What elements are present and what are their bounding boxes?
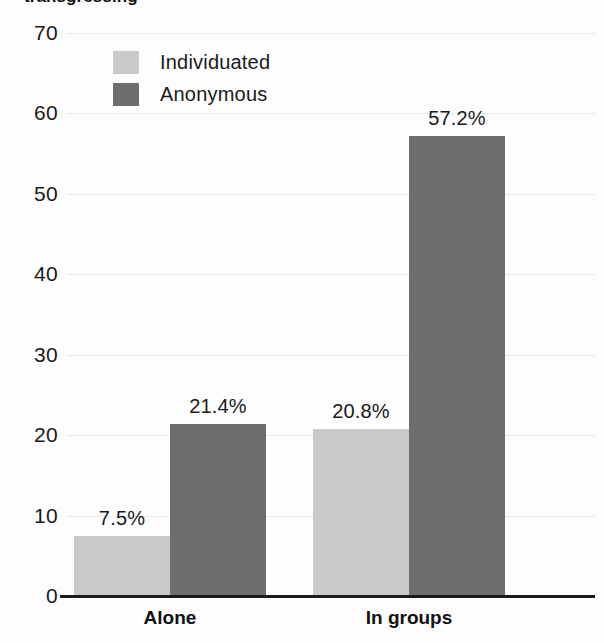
x-tick-label: In groups [366, 607, 453, 629]
bar-value-label: 20.8% [332, 400, 390, 423]
bar [313, 429, 409, 596]
y-axis: 706050403020100 [0, 33, 58, 596]
legend-label: Individuated [160, 51, 270, 74]
plot-area: 7.5%21.4%20.8%57.2% [67, 33, 595, 596]
y-tick-label: 10 [2, 504, 58, 528]
bar-value-label: 57.2% [428, 107, 486, 130]
bar [170, 424, 266, 596]
bar [74, 536, 170, 596]
x-tick-label: Alone [144, 607, 197, 629]
legend-swatch [113, 83, 139, 106]
legend-item: Anonymous [113, 80, 270, 108]
legend-label: Anonymous [160, 83, 267, 106]
y-tick-label: 70 [2, 21, 58, 45]
y-tick-label: 60 [2, 101, 58, 125]
legend-swatch [113, 51, 139, 74]
bar-chart: transgressing 706050403020100 7.5%21.4%2… [0, 0, 604, 643]
bar [409, 136, 505, 596]
y-tick-label: 40 [2, 262, 58, 286]
y-tick-label: 20 [2, 423, 58, 447]
bar-value-label: 21.4% [189, 395, 247, 418]
legend: IndividuatedAnonymous [113, 48, 270, 112]
chart-title: transgressing [24, 0, 138, 7]
y-tick-label: 50 [2, 182, 58, 206]
legend-item: Individuated [113, 48, 270, 76]
x-axis-line [60, 595, 595, 598]
bar-value-label: 7.5% [99, 507, 145, 530]
y-tick-label: 0 [2, 584, 58, 608]
y-tick-label: 30 [2, 343, 58, 367]
